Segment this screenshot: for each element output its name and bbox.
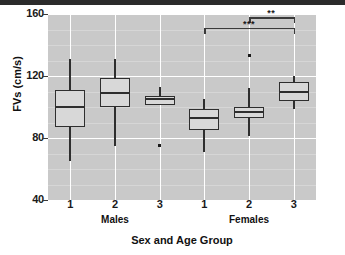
bracket-tick-left bbox=[204, 28, 206, 34]
gridline-horizontal bbox=[48, 61, 316, 62]
median-line bbox=[145, 98, 175, 100]
y-tick-label: 40 bbox=[10, 193, 44, 205]
outlier-point bbox=[158, 144, 161, 147]
plot-area: ***** bbox=[48, 14, 316, 200]
significance-stars: ** bbox=[251, 9, 291, 17]
gridline-horizontal bbox=[48, 76, 316, 77]
box bbox=[55, 90, 85, 127]
median-line bbox=[100, 92, 130, 94]
significance-stars: *** bbox=[229, 20, 269, 28]
median-line bbox=[279, 91, 309, 93]
gridline-horizontal bbox=[48, 123, 316, 124]
box bbox=[189, 109, 219, 131]
x-group-label: Females bbox=[204, 214, 294, 225]
gridline-horizontal bbox=[48, 107, 316, 108]
gridline-horizontal bbox=[48, 45, 316, 46]
gridline-horizontal bbox=[48, 92, 316, 93]
y-tick-label: 160 bbox=[10, 7, 44, 19]
x-tick-label: 3 bbox=[145, 198, 175, 210]
median-line bbox=[234, 111, 264, 113]
top-rule bbox=[0, 0, 345, 5]
x-tick-label: 2 bbox=[234, 198, 264, 210]
x-group-label: Males bbox=[70, 214, 160, 225]
median-line bbox=[55, 106, 85, 108]
x-tick-label: 3 bbox=[279, 198, 309, 210]
x-axis-title: Sex and Age Group bbox=[48, 234, 316, 246]
x-tick-label: 1 bbox=[55, 198, 85, 210]
gridline-horizontal bbox=[48, 185, 316, 186]
y-axis-title: FVs (cm/s) bbox=[11, 29, 23, 139]
gridline-horizontal bbox=[48, 200, 316, 201]
boxplot-figure: FVs (cm/s) 4080120160 ***** 123123MalesF… bbox=[0, 0, 345, 255]
outlier-point bbox=[248, 54, 251, 57]
y-tick-label: 80 bbox=[10, 131, 44, 143]
gridline-horizontal bbox=[48, 154, 316, 155]
gridline-horizontal bbox=[48, 30, 316, 31]
x-tick-label: 1 bbox=[189, 198, 219, 210]
bracket-tick-right bbox=[294, 17, 296, 23]
x-tick-label: 2 bbox=[100, 198, 130, 210]
y-tick-label: 120 bbox=[10, 69, 44, 81]
gridline-horizontal bbox=[48, 138, 316, 139]
bracket-tick-right bbox=[294, 28, 296, 34]
gridline-vertical bbox=[160, 14, 161, 200]
gridline-horizontal bbox=[48, 169, 316, 170]
median-line bbox=[189, 117, 219, 119]
